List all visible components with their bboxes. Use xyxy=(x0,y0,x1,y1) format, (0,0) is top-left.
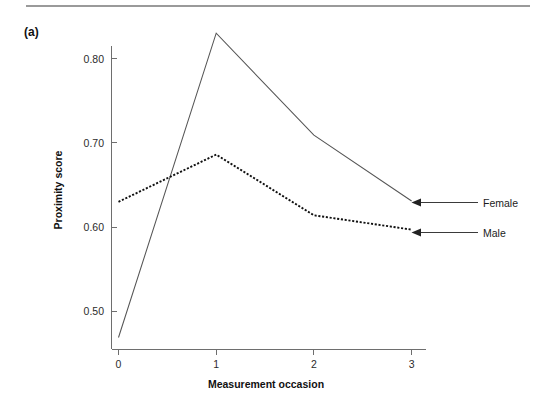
x-tick-label-0: 0 xyxy=(116,358,122,370)
x-tick-label-1: 1 xyxy=(213,358,219,370)
annotation-male: Male xyxy=(412,227,506,239)
x-axis-title: Measurement occasion xyxy=(208,378,324,390)
line-chart: 0.80 0.70 0.60 0.50 0 1 2 3 Measurement … xyxy=(0,0,544,410)
y-axis-title: Proximity score xyxy=(52,150,64,229)
annotation-female-label: Female xyxy=(483,197,518,209)
figure-panel: (a) 0.80 0.70 0.60 0.50 0 1 2 3 M xyxy=(0,0,544,410)
y-tick-label-2: 0.70 xyxy=(84,137,105,149)
x-tick-group xyxy=(119,350,412,356)
x-tick-label-3: 3 xyxy=(409,358,415,370)
y-tick-group xyxy=(112,59,118,312)
series-line-female xyxy=(119,33,412,337)
annotation-female: Female xyxy=(412,197,519,209)
y-tick-label-3: 0.80 xyxy=(84,53,105,65)
series-line-male xyxy=(119,155,412,230)
y-tick-label-1: 0.60 xyxy=(84,221,105,233)
annotation-female-arrowhead xyxy=(412,198,422,206)
annotation-male-arrowhead xyxy=(412,228,422,236)
x-tick-label-2: 2 xyxy=(311,358,317,370)
annotation-male-label: Male xyxy=(483,227,506,239)
y-tick-label-0: 0.50 xyxy=(84,305,105,317)
